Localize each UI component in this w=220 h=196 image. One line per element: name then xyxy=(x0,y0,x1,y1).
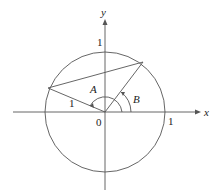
unit-circle-diagram: x y 0 1 1 1 A B xyxy=(0,0,220,196)
angle-a-label: A xyxy=(89,83,97,95)
y-axis-label: y xyxy=(100,6,106,18)
x-one-label: 1 xyxy=(168,115,174,127)
radius-label: 1 xyxy=(69,97,75,109)
angle-a-arrowhead-icon xyxy=(90,103,94,108)
origin-label: 0 xyxy=(96,116,102,128)
angle-b-label: B xyxy=(133,93,140,105)
x-axis-arrow-icon xyxy=(195,110,201,115)
y-axis-arrow-icon xyxy=(103,19,108,25)
x-axis-label: x xyxy=(203,106,209,118)
y-one-label: 1 xyxy=(97,36,103,48)
angle-a-arc xyxy=(90,97,122,112)
